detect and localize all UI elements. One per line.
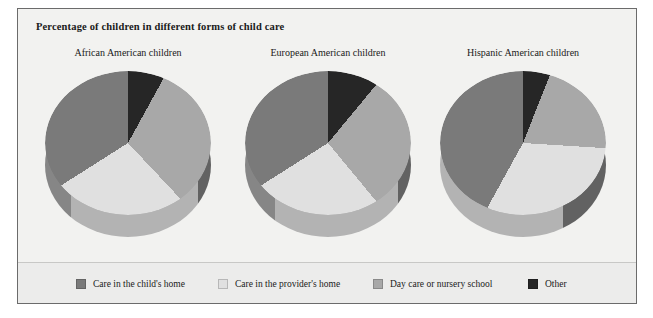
pie-stage xyxy=(440,71,606,247)
pie-3d-top xyxy=(45,71,211,215)
pie-stage xyxy=(245,71,411,247)
legend-swatch-icon xyxy=(218,279,228,289)
pie-chart-caption: European American children xyxy=(228,47,428,58)
pie-slices xyxy=(440,71,606,215)
pie-slices xyxy=(45,71,211,215)
legend-item-care-in-providers-home: Care in the provider's home xyxy=(218,277,340,291)
page-title: Percentage of children in different form… xyxy=(36,21,284,32)
legend-item-label: Care in the child's home xyxy=(93,279,185,289)
pie-stage xyxy=(45,71,211,247)
pie-chart-row: African American children European Ameri… xyxy=(18,47,637,262)
legend-item-label: Day care or nursery school xyxy=(390,279,492,289)
pie-chart-caption: Hispanic American children xyxy=(423,47,623,58)
legend-item-day-care-or-nursery-school: Day care or nursery school xyxy=(373,277,492,291)
pie-chart-hispanic-american: Hispanic American children xyxy=(423,47,623,262)
legend-swatch-icon xyxy=(528,279,538,289)
pie-slices xyxy=(245,71,411,215)
legend-item-other: Other xyxy=(528,277,567,291)
legend-item-care-in-childs-home: Care in the child's home xyxy=(76,277,185,291)
pie-3d-top xyxy=(440,71,606,215)
legend-swatch-icon xyxy=(76,279,86,289)
pie-chart-caption: African American children xyxy=(28,47,228,58)
pie-chart-european-american: European American children xyxy=(228,47,428,262)
figure-panel: Percentage of children in different form… xyxy=(17,8,637,304)
pie-chart-african-american: African American children xyxy=(28,47,228,262)
legend: Care in the child's home Care in the pro… xyxy=(18,263,637,304)
legend-item-label: Care in the provider's home xyxy=(235,279,340,289)
legend-swatch-icon xyxy=(373,279,383,289)
pie-3d-top xyxy=(245,71,411,215)
legend-item-label: Other xyxy=(545,279,567,289)
